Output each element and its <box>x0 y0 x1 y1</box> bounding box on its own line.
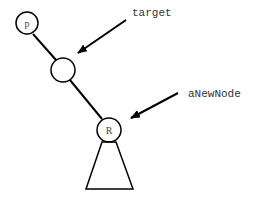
node-target <box>51 58 75 82</box>
edge-p-to-target <box>33 34 56 60</box>
edge-target-to-r <box>70 80 102 119</box>
subtree-triangle <box>86 142 133 189</box>
node-p: p <box>16 12 38 34</box>
target-arrow <box>78 20 126 53</box>
node-r: R <box>97 118 121 142</box>
target-label: target <box>132 7 172 19</box>
new-node-arrow <box>131 93 178 118</box>
new-node-label: aNewNode <box>188 88 241 100</box>
node-r-label: R <box>106 125 113 136</box>
tree-diagram: p R target aNewNode <box>0 0 259 198</box>
node-p-label: p <box>25 18 30 29</box>
